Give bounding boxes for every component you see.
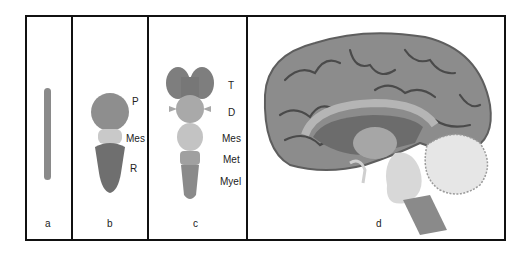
label-metencephalon: Met [223, 154, 240, 165]
five-vesicle-illustration [165, 65, 215, 205]
label-rhombencephalon: R [130, 163, 137, 174]
label-telencephalon: T [228, 80, 234, 91]
adult-brain-illustration [255, 25, 500, 235]
label-prosencephalon: P [132, 96, 139, 107]
label-mesencephalon: Mes [126, 133, 145, 144]
panel-label-c: c [193, 218, 198, 229]
label-myelencephalon: Myel [220, 176, 241, 187]
panel-label-b: b [107, 218, 113, 229]
panel-divider [71, 15, 73, 241]
panel-label-d: d [376, 218, 382, 229]
panel-label-a: a [45, 218, 51, 229]
panel-divider [246, 15, 248, 241]
neural-tube-illustration [40, 85, 60, 185]
label-diencephalon: D [228, 107, 235, 118]
label-mesencephalon: Mes [222, 133, 241, 144]
panel-divider [147, 15, 149, 241]
